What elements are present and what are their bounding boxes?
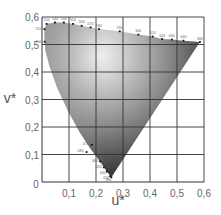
wavelength-label: 590 — [117, 26, 123, 30]
y-tick-label: 0,6 — [25, 12, 39, 23]
x-tick-label: 0 — [33, 179, 39, 190]
locus-marker — [90, 27, 92, 29]
x-tick-label: 0,6 — [197, 188, 211, 199]
locus-marker — [152, 36, 154, 38]
locus-marker — [106, 171, 108, 173]
locus-marker — [44, 41, 46, 43]
locus-marker — [199, 41, 201, 43]
wavelength-label: 680 — [197, 37, 203, 41]
locus-marker — [63, 22, 65, 24]
x-tick-label: 0,4 — [143, 188, 157, 199]
wavelength-label: 580 — [96, 24, 102, 28]
locus-marker — [99, 160, 101, 162]
wavelength-label: 450 — [96, 165, 102, 169]
locus-marker — [44, 28, 46, 30]
wavelength-label: 570 — [88, 22, 94, 26]
locus-marker — [171, 39, 173, 41]
wavelength-label: 600 — [135, 29, 141, 33]
locus-marker — [183, 40, 185, 42]
locus-marker — [109, 175, 111, 177]
locus-marker — [72, 23, 74, 25]
wavelength-label: 510 — [35, 27, 41, 31]
wavelength-label: 610 — [150, 31, 156, 35]
wavelength-label: 550 — [70, 18, 76, 22]
locus-marker — [137, 34, 139, 36]
wavelength-label: 470 — [83, 142, 89, 146]
wavelength-label: 520 — [44, 18, 50, 22]
wavelength-label: 480 — [78, 149, 84, 153]
locus-marker — [98, 28, 100, 30]
locus-marker — [46, 23, 48, 25]
y-tick-label: 0,3 — [25, 95, 39, 106]
wavelength-label: 640 — [180, 35, 186, 39]
locus-marker — [91, 144, 93, 146]
y-tick-label: 0,2 — [25, 122, 39, 133]
wavelength-label: 620 — [159, 34, 165, 38]
locus-marker — [81, 25, 83, 27]
y-tick-label: 0,5 — [25, 40, 39, 51]
y-axis-label: v* — [4, 90, 17, 106]
locus-marker — [103, 167, 105, 169]
locus-marker — [86, 151, 88, 153]
wavelength-label: 460 — [92, 159, 98, 163]
locus-marker — [54, 22, 56, 24]
x-axis-label: u* — [111, 192, 125, 208]
wavelength-label: 560 — [79, 20, 85, 24]
x-tick-label: 0,2 — [89, 188, 103, 199]
wavelength-label: 440 — [100, 171, 106, 175]
y-tick-label: 0,4 — [25, 67, 39, 78]
locus-marker — [119, 30, 121, 32]
x-tick-label: 0,1 — [62, 188, 76, 199]
wavelength-label: 630 — [169, 34, 175, 38]
wavelength-label: 530 — [52, 17, 58, 21]
wavelength-label: 540 — [61, 17, 67, 21]
x-tick-label: 0,5 — [170, 188, 184, 199]
locus-marker — [161, 38, 163, 40]
chromaticity-diagram: 3804204404504604704805005105205305405505… — [0, 0, 221, 215]
y-axis-ticks: 0,10,20,30,40,50,6 — [25, 12, 39, 161]
y-tick-label: 0,1 — [25, 150, 39, 161]
wavelength-label: 420 — [103, 176, 109, 180]
